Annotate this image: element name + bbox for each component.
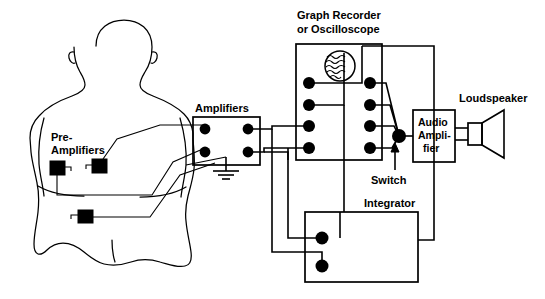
amplifiers-label: Amplifiers bbox=[195, 102, 249, 114]
electrode-lower bbox=[71, 210, 93, 223]
electrode-left bbox=[50, 161, 71, 175]
amplifier-input-terminal-1 bbox=[200, 124, 211, 135]
loudspeaker-label: Loudspeaker bbox=[459, 92, 528, 104]
electrode-right bbox=[86, 159, 107, 173]
graph-recorder-box bbox=[296, 44, 382, 160]
loudspeaker bbox=[455, 110, 504, 158]
graph-recorder-label-line1: Graph Recorder bbox=[297, 9, 381, 21]
recorder-input-terminal-3 bbox=[303, 120, 315, 132]
pre-amplifiers-label-line2: Amplifiers bbox=[51, 144, 105, 156]
oscilloscope-screen bbox=[325, 51, 355, 81]
pre-amplifiers-label-line1: Pre- bbox=[51, 131, 73, 143]
audio-amplifier-label-line3: fier bbox=[423, 142, 439, 154]
integrator-terminal-2 bbox=[316, 260, 329, 273]
recorder-input-terminal-4 bbox=[303, 142, 315, 154]
biofeedback-diagram: Pre- Amplifiers Amplifiers bbox=[0, 0, 545, 299]
electrode-lead-wires bbox=[57, 125, 215, 217]
graph-recorder-label-line2: or Oscilloscope bbox=[297, 23, 380, 35]
integrator-return-wiring bbox=[340, 46, 434, 240]
diagram-canvas: Pre- Amplifiers Amplifiers bbox=[0, 0, 545, 299]
integrator-terminal-1 bbox=[316, 232, 329, 245]
switch-label: Switch bbox=[371, 174, 407, 186]
audio-amplifier-label-line1: Audio bbox=[418, 116, 448, 128]
integrator-box bbox=[305, 212, 418, 282]
amplifier-input-terminal-2 bbox=[200, 147, 211, 158]
integrator-label: Integrator bbox=[364, 197, 416, 209]
